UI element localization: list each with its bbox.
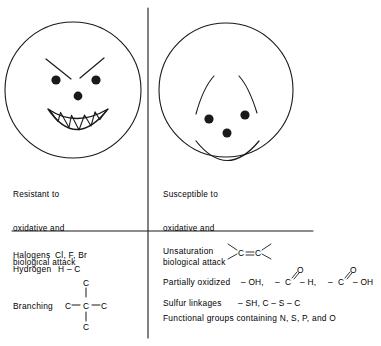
caption-right-line-2: oxidative and bbox=[163, 223, 226, 234]
carbonyl-carbon-1: C bbox=[285, 277, 291, 287]
unsaturation-label: Unsaturation bbox=[163, 246, 214, 256]
happy-eye-right bbox=[240, 110, 249, 119]
hydroxyl-group: – OH, bbox=[241, 277, 264, 287]
happy-nose bbox=[223, 129, 232, 138]
functional-groups-label: Functional groups containing N, S, P, an… bbox=[163, 313, 336, 323]
sulfur-linkages-label: Sulfur linkages bbox=[163, 298, 222, 308]
branching-atom-center: C bbox=[83, 301, 89, 311]
halogens-formula: Cl, F, Br bbox=[55, 250, 87, 260]
hydrogen-formula: H – C bbox=[58, 264, 81, 274]
carboxyl-hydroxyl: – OH bbox=[353, 277, 373, 287]
happy-eyebrow-left bbox=[196, 76, 214, 114]
angry-eyebrow-left bbox=[46, 59, 71, 79]
angry-face-outline bbox=[5, 22, 141, 158]
unsat-bond-upper-left bbox=[228, 244, 237, 250]
happy-eyebrow-right bbox=[239, 76, 257, 113]
unsaturation-atom-right: C bbox=[255, 248, 261, 258]
unsat-bond-lower-right bbox=[262, 254, 271, 259]
caption-right: Susceptible to oxidative and biological … bbox=[163, 166, 226, 291]
unsat-bond-lower-left bbox=[228, 254, 237, 259]
caption-right-line-3: biological attack bbox=[163, 257, 226, 268]
branching-atom-top: C bbox=[83, 278, 89, 288]
branching-atom-bottom: C bbox=[83, 322, 89, 332]
caption-left-line-2: oxidative and bbox=[13, 223, 76, 234]
aldehyde-hydrogen: – H, bbox=[300, 277, 316, 287]
sulfur-linkages-formula: – SH, C – S – C bbox=[238, 298, 301, 308]
dash-before-carbonyl-1: – bbox=[275, 277, 280, 287]
carbonyl-oxygen-2: O bbox=[350, 265, 357, 275]
angry-eye-left bbox=[51, 75, 60, 84]
branching-label: Branching bbox=[13, 301, 53, 311]
angry-eyebrow-right bbox=[80, 58, 104, 78]
happy-eye-left bbox=[204, 114, 213, 123]
carbonyl-oxygen-1: O bbox=[297, 265, 304, 275]
figure-canvas: Resistant to oxidative and biological at… bbox=[0, 0, 381, 346]
halogens-label: Halogens bbox=[13, 250, 50, 260]
unsat-bond-upper-right bbox=[262, 244, 271, 250]
happy-mouth bbox=[196, 141, 259, 161]
caption-left-line-1: Resistant to bbox=[13, 189, 76, 200]
caption-right-line-1: Susceptible to bbox=[163, 189, 226, 200]
unsaturation-atom-left: C bbox=[238, 248, 244, 258]
angry-nose bbox=[74, 92, 83, 101]
branching-atom-right: C bbox=[101, 301, 107, 311]
partially-oxidized-label: Partially oxidized bbox=[163, 277, 230, 287]
angry-eye-right bbox=[91, 75, 100, 84]
branching-atom-left: C bbox=[65, 301, 71, 311]
carbonyl-carbon-2: C bbox=[338, 277, 344, 287]
dash-before-carbonyl-2: – bbox=[328, 277, 333, 287]
hydrogen-label: Hydrogen bbox=[13, 264, 51, 274]
